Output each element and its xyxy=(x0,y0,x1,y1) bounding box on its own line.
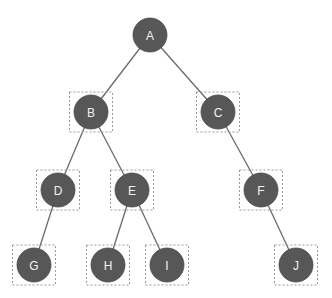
node-label: E xyxy=(128,184,136,198)
node-label: A xyxy=(146,29,154,43)
tree-node-c: C xyxy=(201,95,235,129)
tree-node-d: D xyxy=(41,173,75,207)
node-label: H xyxy=(104,259,113,273)
node-label: B xyxy=(87,106,95,120)
node-label: D xyxy=(54,184,63,198)
tree-nodes: ABCDEFGHIJ xyxy=(17,18,313,282)
node-label: F xyxy=(257,184,264,198)
tree-node-g: G xyxy=(17,248,51,282)
tree-node-f: F xyxy=(244,173,278,207)
node-label: G xyxy=(29,259,38,273)
tree-node-h: H xyxy=(91,248,125,282)
tree-edges xyxy=(34,35,296,265)
node-label: I xyxy=(165,259,168,273)
node-label: C xyxy=(214,106,223,120)
binary-tree-diagram: ABCDEFGHIJ xyxy=(0,0,332,298)
tree-node-i: I xyxy=(150,248,184,282)
tree-node-a: A xyxy=(133,18,167,52)
tree-node-b: B xyxy=(74,95,108,129)
tree-node-j: J xyxy=(279,248,313,282)
node-label: J xyxy=(293,259,299,273)
tree-node-e: E xyxy=(115,173,149,207)
